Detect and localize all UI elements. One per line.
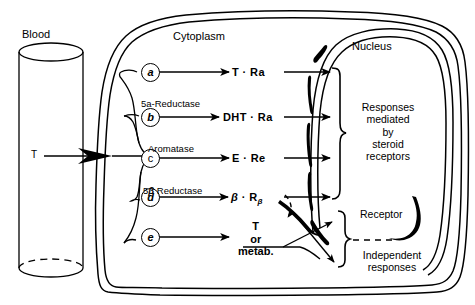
product-label-e: T or metab. <box>238 220 273 258</box>
response-line-4: steroid <box>351 138 425 150</box>
blood-vessel <box>19 43 83 277</box>
hormone-input-label: T <box>31 149 37 160</box>
enzyme-label-c: Aromatase <box>148 143 194 154</box>
pathway-marker-a: a <box>141 63 160 82</box>
response-line-2: mediated <box>351 113 425 125</box>
reaction-arrows <box>157 72 229 237</box>
figure-canvas: Blood Cytoplasm Nucleus T a b c d e 5a-R… <box>0 0 475 305</box>
response-line-1: Responses <box>351 101 425 113</box>
product-label-d: β · Rβ <box>231 191 263 206</box>
pathway-marker-e: e <box>141 228 160 247</box>
enzyme-label-d: 5β Reductase <box>143 185 202 196</box>
independent-line-2: responses <box>352 261 432 273</box>
product-label-a: T · Ra <box>232 66 265 78</box>
blood-label: Blood <box>22 28 50 40</box>
nucleus-label: Nucleus <box>352 40 392 52</box>
product-line-e-3: metab. <box>238 245 273 258</box>
response-line-3: by <box>351 126 425 138</box>
product-line-e-2: or <box>238 233 273 246</box>
cytoplasm-label: Cytoplasm <box>173 30 225 42</box>
product-label-c: E · Re <box>232 152 266 164</box>
product-line-e-1: T <box>238 220 273 233</box>
enzyme-label-b: 5a-Reductase <box>141 98 200 109</box>
receptor-label: Receptor <box>360 208 403 220</box>
nucleus-response-brace <box>332 68 346 199</box>
independent-response-brace <box>338 211 350 267</box>
independent-response-label: Independent responses <box>352 249 432 274</box>
product-label-b: DHT · Ra <box>223 111 273 123</box>
pathway-marker-b: b <box>141 108 160 127</box>
nucleus-response-label: Responses mediated by steroid receptors <box>351 101 425 162</box>
independent-line-1: Independent <box>352 249 432 261</box>
response-line-5: receptors <box>351 150 425 162</box>
